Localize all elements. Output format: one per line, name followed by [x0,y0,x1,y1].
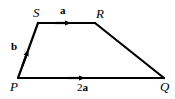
vector-label-b: b [11,41,17,52]
vector-label-a: a [60,5,66,16]
vector-label-b-text: b [11,40,17,52]
edge-PS-arrow [23,53,28,66]
vector-label-a-text: a [60,4,66,16]
edge-RQ [95,23,164,78]
vertex-label-Q: Q [160,80,169,93]
vector-label-2a-text: a [83,81,89,93]
vertex-label-S: S [33,6,40,19]
vector-diagram-figure: S R P Q a b 2a [0,0,175,99]
vertex-label-R: R [96,7,104,20]
vertex-label-P: P [10,80,18,93]
vector-label-2a: 2a [77,82,88,93]
edge-PS [18,23,38,78]
